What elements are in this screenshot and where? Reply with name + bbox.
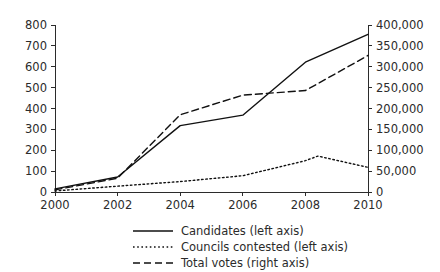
x-tick-label: 2002 — [103, 198, 132, 212]
x-tick-label: 2004 — [166, 198, 195, 212]
y-tick-label-right: 50,000 — [376, 164, 416, 178]
x-tick-label: 2006 — [228, 198, 257, 212]
legend-label: Total votes (right axis) — [180, 256, 309, 270]
y-tick-label-left: 0 — [40, 185, 47, 199]
y-tick-label-left: 300 — [25, 122, 47, 136]
y-tick-label-left: 100 — [25, 164, 47, 178]
y-tick-label-right: 0 — [376, 185, 383, 199]
legend-label: Councils contested (left axis) — [181, 240, 348, 254]
x-tick-label: 2008 — [291, 198, 320, 212]
chart-legend: Candidates (left axis)Councils contested… — [133, 224, 348, 270]
y-tick-label-right: 250,000 — [376, 81, 424, 95]
y-axis-left: 0100200300400500600700800 — [25, 18, 55, 199]
y-tick-label-right: 100,000 — [376, 143, 424, 157]
series-line-solid — [55, 34, 368, 188]
y-tick-label-right: 400,000 — [376, 18, 424, 32]
series-line-dotted — [55, 156, 368, 191]
y-tick-label-left: 700 — [25, 39, 47, 53]
y-tick-label-right: 200,000 — [376, 102, 424, 116]
y-axis-right: 050,000100,000150,000200,000250,000300,0… — [368, 18, 424, 199]
y-tick-label-left: 400 — [25, 102, 47, 116]
series-layer — [55, 34, 368, 191]
y-tick-label-left: 500 — [25, 81, 47, 95]
line-chart: 0100200300400500600700800 050,000100,000… — [0, 0, 440, 272]
chart-container: 0100200300400500600700800 050,000100,000… — [0, 0, 440, 272]
x-axis: 200020022004200620082010 — [40, 192, 382, 212]
y-tick-label-right: 350,000 — [376, 39, 424, 53]
y-tick-label-left: 800 — [25, 18, 47, 32]
x-tick-label: 2000 — [40, 198, 69, 212]
y-tick-label-right: 150,000 — [376, 122, 424, 136]
x-tick-label: 2010 — [353, 198, 382, 212]
y-tick-label-left: 600 — [25, 60, 47, 74]
y-tick-label-left: 200 — [25, 143, 47, 157]
series-line-dashed — [55, 55, 368, 189]
y-tick-label-right: 300,000 — [376, 60, 424, 74]
legend-label: Candidates (left axis) — [181, 224, 304, 238]
